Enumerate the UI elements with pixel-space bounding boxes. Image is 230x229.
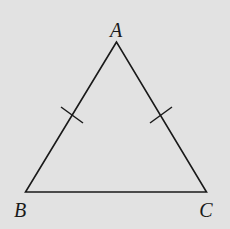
vertex-label-a: A bbox=[108, 19, 123, 41]
diagram-svg: A B C bbox=[0, 0, 230, 229]
triangle-diagram: A B C bbox=[0, 0, 230, 229]
vertex-label-c: C bbox=[199, 199, 213, 221]
vertex-label-b: B bbox=[14, 199, 26, 221]
